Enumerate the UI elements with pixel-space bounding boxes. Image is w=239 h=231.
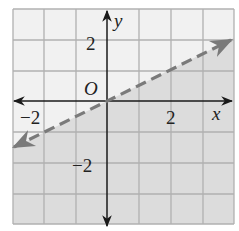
coordinate-graph: y x O 2 −2 −2 2 — [0, 0, 239, 231]
origin-label: O — [84, 78, 98, 99]
x-tick-label-neg2: −2 — [20, 107, 40, 128]
y-tick-label-pos2: 2 — [86, 33, 96, 54]
x-axis-label: x — [211, 103, 221, 124]
x-tick-label-pos2: 2 — [166, 107, 176, 128]
y-axis-label: y — [112, 10, 123, 31]
y-tick-label-neg2: −2 — [72, 155, 92, 176]
